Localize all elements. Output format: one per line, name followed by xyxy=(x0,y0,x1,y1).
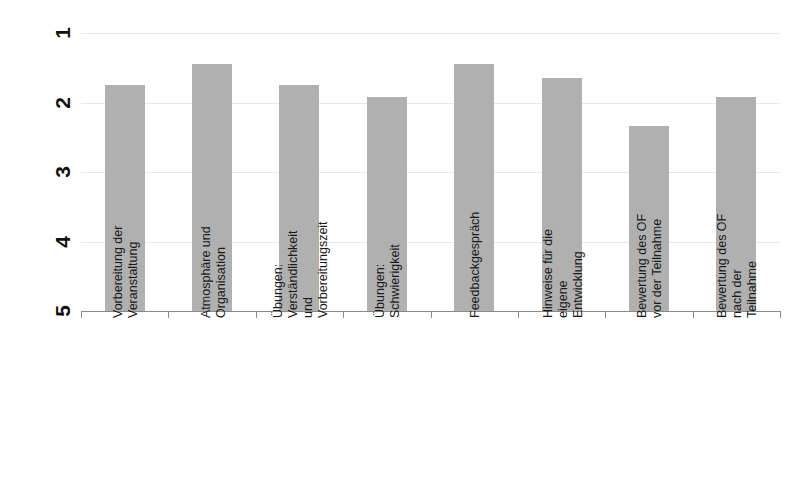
bar-chart: 12345 Vorbereitung derVeranstaltungAtmos… xyxy=(0,0,804,496)
category-label-line: Entwicklung xyxy=(572,146,587,318)
value-axis-tick-label: 3 xyxy=(51,157,75,187)
plot-area xyxy=(81,33,780,311)
axis-tick xyxy=(605,311,606,318)
axis-tick xyxy=(780,311,781,318)
value-axis-tick-label: 4 xyxy=(51,227,75,257)
category-label-line: Schwierigkeit xyxy=(389,146,404,318)
axis-tick xyxy=(256,311,257,318)
category-label-line: Atmosphäre und xyxy=(200,146,215,318)
value-axis-tick-label: 2 xyxy=(51,88,75,118)
category-label-line: Organisation xyxy=(215,146,230,318)
axis-tick xyxy=(168,311,169,318)
category-label-line: Teilnahme xyxy=(746,146,761,318)
axis-tick xyxy=(81,311,82,318)
category-label-line: eigene xyxy=(557,146,572,318)
axis-tick xyxy=(431,311,432,318)
category-label-line: vor der Teilnahme xyxy=(651,146,666,318)
value-axis-tick-label: 5 xyxy=(51,296,75,326)
category-label-line: Verständlichkeit xyxy=(287,146,302,318)
category-label-line: Übungen: xyxy=(272,146,287,318)
axis-tick xyxy=(343,311,344,318)
category-label-line: Vorbereitungszeit xyxy=(317,146,332,318)
category-label-line: Feedbackgespräch xyxy=(469,146,484,318)
category-label-line: und xyxy=(302,146,317,318)
category-label-line: Veranstaltung xyxy=(127,146,142,318)
value-axis-tick-label: 1 xyxy=(51,18,75,48)
axis-tick xyxy=(693,311,694,318)
axis-tick xyxy=(518,311,519,318)
category-label-line: Hinweise für die xyxy=(542,146,557,318)
category-label-line: Vorbereitung der xyxy=(112,146,127,318)
